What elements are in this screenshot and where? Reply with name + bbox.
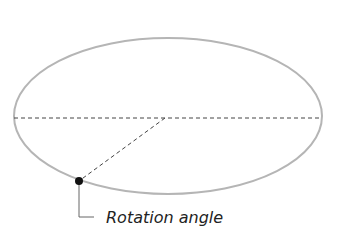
ellipse-outline: [14, 38, 322, 194]
rotation-angle-label: Rotation angle: [106, 208, 223, 227]
radius-dashed-line: [79, 118, 165, 181]
rotation-angle-diagram: Rotation angle: [0, 0, 348, 237]
rotation-point-marker: [75, 177, 83, 185]
